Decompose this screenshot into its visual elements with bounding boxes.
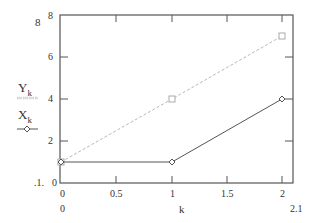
x-ticks	[116, 15, 282, 183]
y-tick-label: 6	[48, 51, 53, 62]
legend-x-marker	[24, 126, 30, 132]
y-min-label: .1.	[34, 177, 44, 188]
x-tick-label: 0	[60, 188, 65, 199]
chart-canvas	[0, 0, 315, 223]
y-tick-label: 0	[52, 177, 57, 188]
y-tick-label: 8	[48, 10, 53, 21]
x-tick-label: 1.5	[221, 188, 234, 199]
y-max-label: 8	[35, 16, 41, 28]
x-min-label: 0	[60, 203, 65, 214]
x-tick-label: 1	[170, 188, 175, 199]
legend-x-label: Xk	[18, 107, 32, 125]
x-tick-label: 2	[280, 188, 285, 199]
plot-frame	[60, 15, 293, 183]
x-tick-label: 0.5	[110, 188, 123, 199]
series-x-line	[61, 99, 282, 162]
x-max-label: 2.1	[290, 203, 303, 214]
series-y-markers	[58, 33, 285, 165]
y-ticks	[60, 57, 293, 141]
x-axis-label: k	[179, 203, 185, 215]
y-tick-label: 4	[48, 93, 53, 104]
legend-y-label: Yk	[18, 80, 32, 98]
series-x-markers	[58, 96, 285, 165]
y-tick-label: 2	[48, 135, 53, 146]
